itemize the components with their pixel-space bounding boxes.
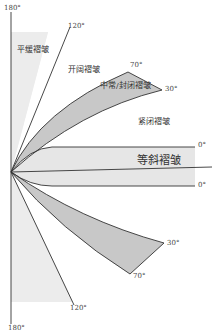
angle-label-180-top: 180° <box>4 4 21 12</box>
angle-label-120-top: 120° <box>68 22 85 30</box>
angle-label-120-bottom: 120° <box>70 304 87 312</box>
angle-label-30-top: 30° <box>165 85 177 93</box>
angle-label-180-bottom: 180° <box>8 324 25 332</box>
angle-label-70-top: 70° <box>130 61 142 69</box>
fold-label-tight: 紧闭褶皱 <box>138 115 170 126</box>
angle-label-0-bottom: 0° <box>198 181 206 189</box>
fold-label-open: 开阔褶皱 <box>68 63 100 74</box>
angle-label-30-bottom: 30° <box>167 239 179 247</box>
fold-label-moderate-close: 中常/封闭褶皱 <box>100 79 151 90</box>
fold-label-isoclinal: 等斜褶皱 <box>137 151 181 167</box>
angle-label-0-top: 0° <box>198 141 206 149</box>
angle-label-70-bottom: 70° <box>133 272 145 280</box>
fold-label-gentle: 平缓褶皱 <box>17 43 49 54</box>
